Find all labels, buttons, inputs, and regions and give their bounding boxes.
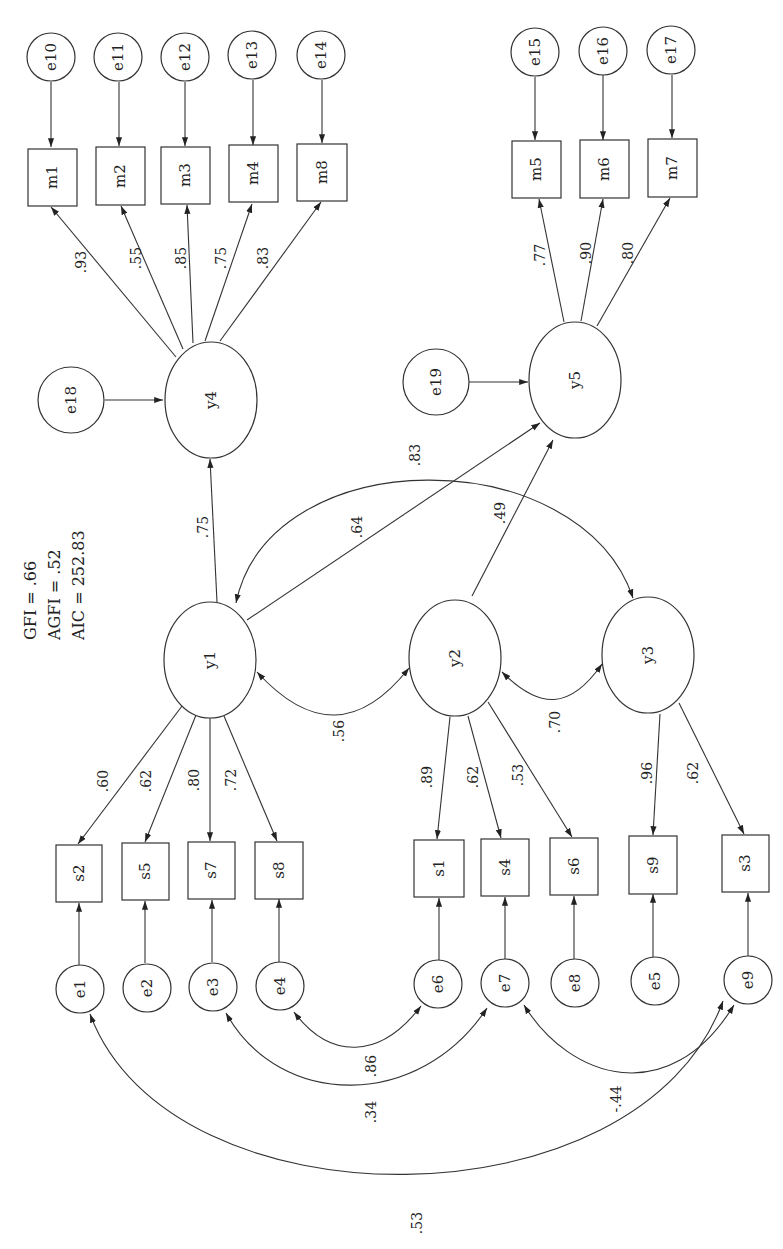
sem-path-diagram: GFI = .66 AGFI = .52 AIC = 252.83	[0, 0, 783, 1249]
agfi-text: AGFI = .52	[45, 549, 64, 641]
coef-y4-m1: .93	[73, 251, 89, 273]
e11-label: e11	[109, 43, 127, 71]
error-node-e17[interactable]: e17	[647, 26, 695, 74]
y5-loadings	[539, 198, 670, 326]
s5-label: s5	[136, 862, 154, 879]
aic-text: AIC = 252.83	[69, 530, 88, 641]
coef-y2-y5: .49	[492, 502, 508, 524]
coef-y4-m3: .85	[173, 247, 189, 269]
error-node-e19[interactable]: e19	[403, 349, 469, 415]
coef-e3-e7: .34	[363, 1101, 379, 1123]
observed-node-s9[interactable]: s9	[629, 836, 677, 894]
observed-node-s4[interactable]: s4	[481, 839, 529, 896]
coef-y5-m7: .80	[620, 242, 636, 264]
coef-y1-y2: .56	[331, 720, 347, 742]
coef-y1-y4: .75	[195, 516, 211, 538]
e4-label: e4	[271, 977, 289, 995]
e12-label: e12	[176, 43, 194, 71]
error-correlations	[90, 1001, 734, 1174]
error-node-e2[interactable]: e2	[123, 964, 171, 1012]
s2-label: s2	[70, 864, 88, 881]
e19-label: e19	[427, 368, 445, 396]
error-node-e5[interactable]: e5	[631, 957, 679, 1005]
error-node-e15[interactable]: e15	[511, 28, 559, 76]
e1-label: e1	[71, 980, 89, 998]
latent-node-y3[interactable]: y3	[602, 597, 694, 713]
e15-label: e15	[526, 38, 544, 66]
s8-label: s8	[270, 861, 288, 878]
e5-label: e5	[646, 972, 664, 990]
s9-label: s9	[644, 856, 662, 873]
e14-label: e14	[312, 41, 330, 69]
coef-y5-m5: .77	[532, 244, 548, 266]
error-node-e14[interactable]: e14	[297, 31, 345, 79]
coef-y4-m4: .75	[213, 247, 229, 269]
observed-node-s2[interactable]: s2	[56, 845, 102, 902]
observed-node-m6[interactable]: m6	[580, 140, 629, 198]
error-node-e10[interactable]: e10	[27, 33, 75, 81]
error-node-e1[interactable]: e1	[56, 965, 104, 1013]
error-node-e4[interactable]: e4	[256, 962, 304, 1010]
error-node-e8[interactable]: e8	[551, 959, 599, 1007]
error-node-e9[interactable]: e9	[724, 956, 772, 1004]
coef-y1-s8: .72	[223, 769, 239, 791]
coef-e7-e9: -.44	[608, 1085, 624, 1112]
e3-label: e3	[204, 978, 222, 996]
e2-label: e2	[138, 979, 156, 997]
error-node-e7[interactable]: e7	[481, 959, 529, 1007]
coef-y1-y3: .83	[407, 444, 423, 466]
observed-node-m1[interactable]: m1	[28, 149, 77, 206]
observed-node-s1[interactable]: s1	[414, 840, 464, 897]
observed-node-s5[interactable]: s5	[122, 843, 169, 900]
coef-e4-e6: .86	[363, 1055, 379, 1077]
latent-node-y4[interactable]: y4	[165, 342, 257, 458]
m2-label: m2	[111, 164, 129, 188]
y4-label: y4	[202, 391, 220, 410]
coef-y3-s9: .96	[639, 762, 655, 784]
coef-y1-s5: .62	[138, 770, 154, 792]
coef-y4-m8: .83	[255, 247, 271, 269]
s1-label: s1	[430, 859, 448, 876]
y2-label: y2	[446, 649, 464, 668]
gfi-text: GFI = .66	[21, 561, 40, 640]
y1-label: y1	[201, 651, 219, 670]
observed-node-m8[interactable]: m8	[297, 144, 347, 201]
observed-node-s6[interactable]: s6	[550, 838, 598, 895]
e17-label: e17	[662, 36, 680, 64]
observed-node-m3[interactable]: m3	[161, 147, 210, 204]
e16-label: e16	[594, 37, 612, 65]
e8-label: e8	[566, 974, 584, 992]
observed-node-m7[interactable]: m7	[648, 139, 697, 197]
error-node-e18[interactable]: e18	[38, 367, 104, 433]
coef-y1-s7: .80	[186, 769, 202, 791]
y3-label: y3	[639, 646, 657, 665]
coef-y2-s1: .89	[419, 766, 435, 788]
observed-node-m2[interactable]: m2	[96, 147, 145, 205]
observed-node-s8[interactable]: s8	[255, 842, 303, 899]
error-node-e13[interactable]: e13	[228, 31, 276, 79]
latent-node-y2[interactable]: y2	[409, 600, 501, 716]
error-node-e6[interactable]: e6	[414, 960, 462, 1008]
m3-label: m3	[176, 163, 194, 187]
latent-node-y5[interactable]: y5	[529, 322, 621, 438]
error-node-e3[interactable]: e3	[189, 963, 237, 1011]
observed-node-s3[interactable]: s3	[722, 835, 769, 892]
e18-label: e18	[62, 386, 80, 414]
coef-e1-e9: .53	[409, 1212, 425, 1234]
coef-y1-s2: .60	[95, 770, 111, 792]
y5-label: y5	[566, 371, 584, 390]
latent-node-y1[interactable]: y1	[164, 602, 256, 718]
error-node-e11[interactable]: e11	[94, 33, 142, 81]
coef-y5-m6: .90	[578, 242, 594, 264]
observed-node-m5[interactable]: m5	[512, 141, 561, 198]
error-arrows-s	[79, 893, 748, 965]
m4-label: m4	[244, 161, 262, 185]
coef-y4-m2: .55	[128, 247, 144, 269]
e7-label: e7	[496, 974, 514, 992]
error-node-e12[interactable]: e12	[161, 33, 209, 81]
observed-node-s7[interactable]: s7	[188, 842, 235, 899]
observed-node-m4[interactable]: m4	[229, 145, 278, 202]
error-node-e16[interactable]: e16	[579, 27, 627, 75]
m8-label: m8	[313, 160, 331, 184]
y4-loadings	[51, 202, 321, 357]
